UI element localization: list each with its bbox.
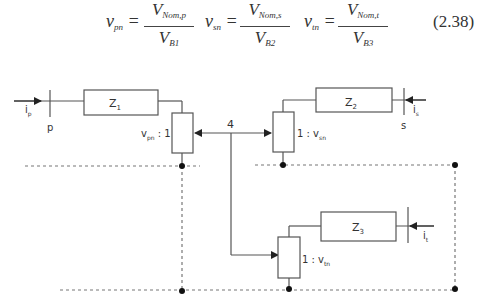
tertiary-ratio-label: 1 : vtn [302, 254, 330, 267]
three-winding-transformer-diagram: Z1 Z2 Z3 ip is it p s 4 vpn : 1 1 : vsn … [0, 0, 488, 302]
is-label: is [413, 104, 419, 117]
tertiary-transformer [278, 237, 300, 278]
port-p-label: p [47, 122, 53, 133]
primary-ratio-label: vpn : 1 [141, 128, 171, 142]
junction-dot [280, 162, 286, 168]
port-s-label: s [401, 120, 406, 131]
junction-dot [179, 163, 185, 169]
secondary-transformer [273, 112, 294, 152]
node-4-label: 4 [227, 118, 234, 131]
junction-dot [452, 286, 458, 292]
junction-dot [179, 288, 185, 294]
primary-transformer [172, 113, 193, 153]
secondary-ratio-label: 1 : vsn [297, 128, 326, 141]
junction-dot [286, 286, 292, 292]
it-label: it [423, 230, 429, 243]
ip-label: ip [25, 104, 32, 118]
junction-dot [452, 162, 458, 168]
